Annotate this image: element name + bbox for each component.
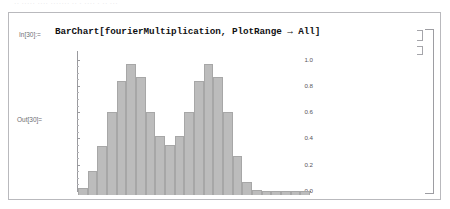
bar[interactable] (97, 146, 107, 195)
input-code-text[interactable]: BarChart[fourierMultiplication, PlotRang… (55, 26, 320, 37)
bar-column (107, 51, 117, 195)
bar-column (88, 51, 98, 195)
input-cell-bracket[interactable] (417, 30, 423, 41)
bar-column (126, 51, 136, 195)
bar-column (136, 51, 146, 195)
bar[interactable] (184, 112, 194, 195)
bar[interactable] (107, 112, 117, 195)
bar-column (281, 51, 291, 195)
bar[interactable] (204, 64, 214, 195)
bar[interactable] (126, 64, 136, 195)
output-cell-bracket[interactable] (417, 46, 423, 55)
bar-column (97, 51, 107, 195)
bar-column (223, 51, 233, 195)
bar-column (175, 51, 185, 195)
cell-group-bracket[interactable] (425, 29, 434, 194)
bar[interactable] (271, 191, 281, 195)
bar-column (78, 51, 88, 195)
bar[interactable] (175, 136, 185, 195)
bar[interactable] (117, 81, 127, 195)
bar-column (242, 51, 252, 195)
bar[interactable] (233, 156, 243, 195)
bar[interactable] (223, 112, 233, 195)
bar[interactable] (78, 188, 88, 195)
bar[interactable] (300, 191, 310, 195)
bar-column (252, 51, 262, 195)
bar-column (213, 51, 223, 195)
bar[interactable] (136, 77, 146, 195)
bar-column (184, 51, 194, 195)
bar-series (78, 51, 310, 195)
bar-column (155, 51, 165, 195)
bar[interactable] (262, 191, 272, 195)
bar-column (291, 51, 301, 195)
bar[interactable] (165, 145, 175, 195)
bar[interactable] (281, 191, 291, 195)
bar[interactable] (146, 112, 156, 195)
bar-column (262, 51, 272, 195)
output-cell-label: Out[30]= (17, 116, 42, 123)
bar-column (204, 51, 214, 195)
bar-chart: 1.00.80.60.40.20.0 (53, 47, 313, 195)
bar[interactable] (213, 77, 223, 195)
screenshot-root: ·· ····· ···· ······· ·· · ···· · ·· ···… (0, 0, 450, 209)
bar[interactable] (155, 136, 165, 195)
bar[interactable] (242, 182, 252, 195)
bar-column (117, 51, 127, 195)
input-cell-label: In[30]:= (19, 31, 41, 38)
notebook-window: In[30]:= BarChart[fourierMultiplication,… (8, 12, 441, 200)
bar-column (165, 51, 175, 195)
bar-column (233, 51, 243, 195)
bar[interactable] (88, 171, 98, 195)
bar-column (194, 51, 204, 195)
bar[interactable] (252, 190, 262, 195)
clipped-text-sliver: ·· ····· ···· ······· ·· · ···· · ·· ··· (14, 0, 314, 8)
bar[interactable] (194, 81, 204, 195)
bar-column (300, 51, 310, 195)
bar[interactable] (291, 191, 301, 195)
bar-column (271, 51, 281, 195)
bar-column (146, 51, 156, 195)
